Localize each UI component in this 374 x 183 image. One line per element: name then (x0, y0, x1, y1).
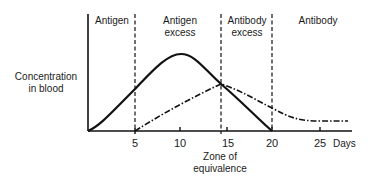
zone-label-antibody: Antibody (290, 15, 346, 27)
zone-label-antibody-excess-2: excess (221, 27, 273, 39)
zone-of-equivalence-1: Zone of (190, 151, 250, 163)
x-tick-15: 15 (218, 137, 238, 149)
x-tick-10: 10 (170, 137, 190, 149)
zone-label-antigen-excess-1: Antigen (150, 15, 210, 27)
x-axis-unit-days: Days (333, 138, 356, 150)
antigen-curve (88, 54, 272, 131)
zone-label-antibody-excess-1: Antibody (221, 15, 273, 27)
zone-label-antigen-excess-2: excess (150, 27, 210, 39)
y-axis-label-2: in blood (10, 83, 82, 95)
antibody-curve (135, 84, 348, 131)
zone-of-equivalence-2: equivalence (190, 163, 250, 175)
x-tick-5: 5 (125, 137, 145, 149)
x-tick-20: 20 (262, 137, 282, 149)
y-axis-label-1: Concentration (10, 71, 82, 83)
x-tick-25: 25 (310, 137, 330, 149)
zone-label-antigen: Antigen (95, 15, 129, 27)
